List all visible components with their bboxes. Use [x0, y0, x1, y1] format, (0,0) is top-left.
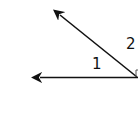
angle-2-label: 2 [126, 35, 136, 53]
angle-diagram: 1 2 [0, 0, 138, 114]
angle-1-label: 1 [92, 55, 102, 73]
